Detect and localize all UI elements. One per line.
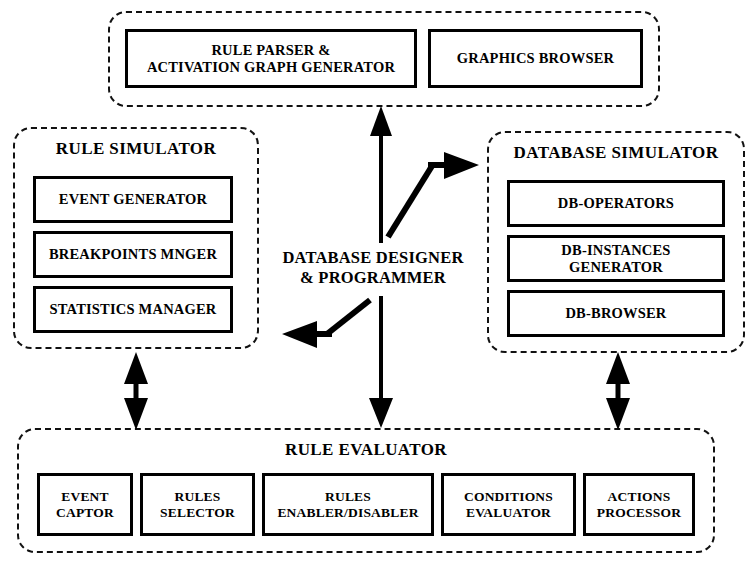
box-event-generator[interactable]: EVENT GENERATOR [33, 176, 233, 223]
center-actor-label: DATABASE DESIGNER & PROGRAMMER [259, 248, 487, 288]
center-actor-line2: & PROGRAMMER [259, 268, 487, 288]
arrow-actor-to-rule-evaluator-icon [369, 296, 393, 428]
box-event-captor[interactable]: EVENT CAPTOR [37, 473, 133, 536]
box-rules-enabler-disabler[interactable]: RULES ENABLER/DISABLER [262, 473, 434, 536]
panel-database-simulator-title: DATABASE SIMULATOR [487, 143, 745, 163]
arrow-actor-to-database-simulator-icon [388, 152, 479, 237]
box-actions-processor[interactable]: ACTIONS PROCESSOR [583, 473, 695, 536]
panel-rule-simulator-title: RULE SIMULATOR [13, 139, 259, 159]
box-breakpoints-mnger[interactable]: BREAKPOINTS MNGER [33, 231, 233, 278]
box-rule-parser-activation-graph-generator[interactable]: RULE PARSER & ACTIVATION GRAPH GENERATOR [125, 29, 417, 88]
arrow-database-simulator-to-rule-evaluator-icon [606, 352, 630, 430]
panel-rule-evaluator-title: RULE EVALUATOR [17, 440, 715, 460]
box-graphics-browser[interactable]: GRAPHICS BROWSER [428, 29, 643, 88]
box-conditions-evaluator[interactable]: CONDITIONS EVALUATOR [441, 473, 576, 536]
box-db-browser[interactable]: DB-BROWSER [507, 290, 725, 337]
box-db-operators[interactable]: DB-OPERATORS [507, 180, 725, 227]
box-db-instances-generator[interactable]: DB-INSTANCES GENERATOR [507, 235, 725, 282]
arrow-actor-to-rule-simulator-icon [282, 300, 370, 348]
center-actor-line1: DATABASE DESIGNER [259, 248, 487, 268]
arrow-rule-simulator-to-rule-evaluator-icon [124, 352, 148, 430]
box-rules-selector[interactable]: RULES SELECTOR [140, 473, 255, 536]
arrow-actor-to-parser-icon [370, 106, 392, 243]
box-statistics-manager[interactable]: STATISTICS MANAGER [33, 286, 233, 333]
diagram-canvas: RULE PARSER & ACTIVATION GRAPH GENERATOR… [0, 0, 752, 565]
